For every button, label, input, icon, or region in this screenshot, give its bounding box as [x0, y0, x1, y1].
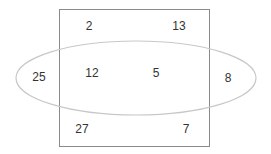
region-ellipse-left: 25	[32, 70, 45, 84]
region-rect-top-right: 13	[172, 19, 185, 33]
region-intersection-left: 12	[85, 66, 98, 80]
region-ellipse-right: 8	[225, 71, 232, 85]
region-rect-bottom-left: 27	[75, 122, 88, 136]
region-rect-top-left: 2	[86, 19, 93, 33]
ellipse-set	[16, 41, 256, 115]
region-rect-bottom-right: 7	[183, 122, 190, 136]
region-intersection-right: 5	[153, 66, 160, 80]
